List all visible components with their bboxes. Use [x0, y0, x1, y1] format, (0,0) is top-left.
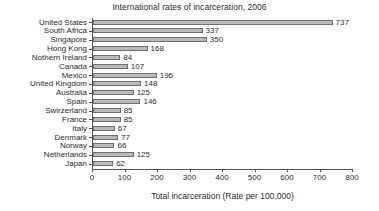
x-axis-tick	[190, 169, 191, 172]
x-axis-title: Total incarceration (Rate per 100,000)	[92, 191, 353, 201]
x-axis-tick-label: 200	[150, 173, 163, 183]
category-label: Japan	[65, 159, 87, 168]
bar-value-label: 84	[123, 53, 132, 62]
category-tick	[89, 102, 92, 103]
category-tick	[89, 164, 92, 165]
bar-value-label: 125	[137, 150, 150, 159]
bar-value-label: 337	[206, 26, 219, 35]
bar	[93, 73, 157, 78]
x-axis-tick-label: 0	[90, 173, 94, 183]
bar	[93, 64, 128, 69]
bar-row: Norway66	[92, 142, 352, 151]
category-tick	[89, 31, 92, 32]
bar-row: Italy67	[92, 124, 352, 133]
bar-row: Mexico196	[92, 71, 352, 80]
x-axis-tick	[287, 169, 288, 172]
x-axis-tick	[320, 169, 321, 172]
x-axis-tick-label: 400	[215, 173, 228, 183]
bar-row: United States737	[92, 18, 352, 27]
bar-row: United Kingdom148	[92, 80, 352, 89]
category-tick	[89, 57, 92, 58]
bar	[93, 90, 134, 95]
bar-value-label: 168	[151, 44, 164, 53]
plot-area: United States737South Africa337Singapore…	[92, 18, 352, 168]
bar-row: France85	[92, 115, 352, 124]
bar-value-label: 125	[137, 88, 150, 97]
category-tick	[89, 49, 92, 50]
bar-row: Australia125	[92, 89, 352, 98]
bar	[93, 143, 114, 148]
category-label: Australia	[56, 88, 87, 97]
category-label: United Kingdom	[30, 79, 87, 88]
incarceration-bar-chart: International rates of incarceration, 20…	[0, 0, 379, 211]
category-label: Hong Kong	[47, 44, 87, 53]
category-tick	[89, 111, 92, 112]
x-axis-tick-label: 700	[313, 173, 326, 183]
bar	[93, 20, 333, 25]
bar	[93, 46, 148, 51]
category-tick	[89, 66, 92, 67]
bar	[93, 37, 207, 42]
x-axis-tick	[125, 169, 126, 172]
category-label: Nothern Ireland	[32, 53, 87, 62]
category-label: France	[62, 115, 87, 124]
bar-value-label: 737	[336, 18, 349, 27]
x-axis-tick	[352, 169, 353, 172]
category-label: Denmark	[55, 133, 87, 142]
bar-value-label: 146	[143, 97, 156, 106]
x-axis-tick	[222, 169, 223, 172]
bar-row: Singapore350	[92, 36, 352, 45]
bar	[93, 99, 140, 104]
category-label: Canada	[59, 62, 87, 71]
bar-value-label: 196	[160, 71, 173, 80]
bar-row: Denmark77	[92, 133, 352, 142]
category-tick	[89, 119, 92, 120]
bar	[93, 135, 118, 140]
x-axis-tick-label: 300	[183, 173, 196, 183]
bar-value-label: 67	[118, 124, 127, 133]
category-label: Italy	[72, 124, 87, 133]
bar-value-label: 62	[116, 159, 125, 168]
category-tick	[89, 146, 92, 147]
x-axis-tick	[255, 169, 256, 172]
x-axis-tick-label: 100	[118, 173, 131, 183]
bar-value-label: 350	[210, 35, 223, 44]
category-tick	[89, 137, 92, 138]
bar	[93, 152, 134, 157]
bar-row: Netherlands125	[92, 151, 352, 160]
bar-value-label: 85	[124, 115, 133, 124]
bar	[93, 55, 120, 60]
x-axis-tick-label: 500	[248, 173, 261, 183]
category-label: United States	[39, 18, 87, 27]
category-label: Netherlands	[44, 150, 87, 159]
category-tick	[89, 84, 92, 85]
bar-value-label: 66	[117, 141, 126, 150]
category-tick	[89, 40, 92, 41]
category-tick	[89, 93, 92, 94]
bar-value-label: 148	[144, 79, 157, 88]
category-tick	[89, 22, 92, 23]
bar	[93, 161, 113, 166]
bar	[93, 28, 203, 33]
x-axis-tick-label: 600	[280, 173, 293, 183]
bar-value-label: 85	[124, 106, 133, 115]
category-label: Singapore	[51, 35, 87, 44]
category-label: Spain	[67, 97, 87, 106]
category-tick	[89, 75, 92, 76]
category-label: Norway	[60, 141, 87, 150]
chart-title: International rates of incarceration, 20…	[0, 2, 379, 12]
x-axis-tick-label: 800	[345, 173, 358, 183]
bar-row: Canada107	[92, 62, 352, 71]
bar	[93, 126, 115, 131]
category-tick	[89, 155, 92, 156]
category-label: Mexico	[62, 71, 87, 80]
bar	[93, 81, 141, 86]
bar-value-label: 77	[121, 133, 130, 142]
category-label: South Africa	[44, 26, 87, 35]
x-axis-tick	[92, 169, 93, 172]
bar-row: Japan62	[92, 160, 352, 169]
category-label: Swirzerland	[45, 106, 87, 115]
category-tick	[89, 128, 92, 129]
bar	[93, 117, 121, 122]
x-axis-tick	[157, 169, 158, 172]
